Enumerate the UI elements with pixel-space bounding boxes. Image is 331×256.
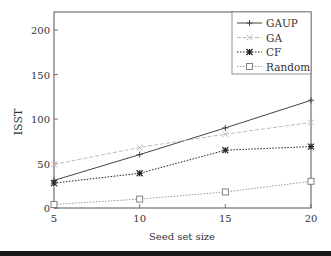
- y-axis-label: ISST: [12, 108, 25, 135]
- legend-label: CF: [266, 46, 281, 58]
- series-cf: [51, 144, 314, 186]
- x-tick-label: 15: [219, 213, 232, 224]
- x-axis-ticks: 5101520: [51, 204, 318, 224]
- x-axis-label: Seed set size: [149, 231, 215, 242]
- legend-label: GAUP: [266, 17, 298, 29]
- line-chart: 050100150200 5101520 ISST Seed set size …: [0, 0, 331, 256]
- legend: GAUPGACFRandom: [232, 12, 311, 74]
- x-tick-label: 20: [305, 213, 318, 224]
- series-random: [51, 178, 314, 207]
- y-tick-label: 50: [37, 159, 50, 170]
- y-tick-label: 100: [31, 114, 50, 125]
- series-lines: [51, 97, 314, 207]
- y-tick-label: 200: [31, 25, 50, 36]
- y-tick-label: 0: [44, 203, 50, 214]
- x-tick-label: 10: [133, 213, 146, 224]
- x-tick-label: 5: [51, 213, 57, 224]
- y-tick-label: 150: [31, 70, 50, 81]
- bottom-border-bar: [0, 251, 331, 256]
- series-ga: [51, 120, 314, 168]
- legend-label: GA: [266, 32, 282, 44]
- series-gaup: [51, 97, 314, 183]
- legend-label: Random: [266, 61, 310, 73]
